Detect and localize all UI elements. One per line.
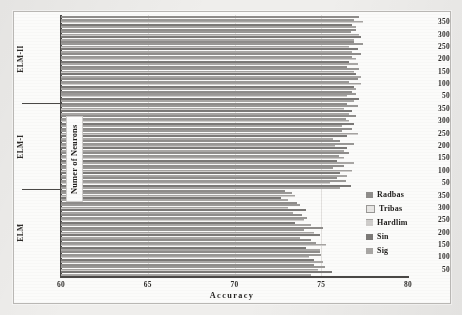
legend-label: Sig [377, 246, 388, 255]
legend-label: Sin [377, 232, 389, 241]
x-tick-label: 70 [215, 280, 255, 289]
y-tick-label: 300 [408, 117, 450, 124]
y-tick-label: 250 [408, 43, 450, 50]
y-tick-label: 300 [408, 31, 450, 38]
legend-swatch-icon [366, 248, 373, 254]
legend-item-tribas[interactable]: Tribas [366, 202, 446, 215]
group-label-elm-i: ELM-I [16, 115, 30, 178]
legend-label: Tribas [379, 204, 402, 213]
legend-item-sin[interactable]: Sin [366, 230, 446, 243]
group-divider [22, 103, 62, 104]
x-tick-label: 75 [301, 280, 341, 289]
group-divider [22, 189, 62, 190]
legend-swatch-icon [366, 234, 373, 240]
legend-item-radbas[interactable]: Radbas [366, 188, 446, 201]
y-tick-label: 350 [408, 105, 450, 112]
legend-swatch-icon [366, 219, 373, 226]
y-tick-label: 100 [408, 167, 450, 174]
x-axis-title: Accuracy [14, 291, 450, 300]
legend-label: Hardlim [377, 218, 408, 227]
y-tick-label: 200 [408, 55, 450, 62]
y-tick-label: 150 [408, 154, 450, 161]
x-tick-label: 60 [41, 280, 81, 289]
legend-swatch-icon [366, 205, 375, 213]
chart-figure: 6065707580ELM-II35030025020015010050ELM-… [13, 11, 451, 304]
x-axis-line [60, 276, 409, 278]
y-tick-label: 50 [408, 179, 450, 186]
legend-label: Radbas [377, 190, 404, 199]
scanned-page-background: 6065707580ELM-II35030025020015010050ELM-… [0, 0, 462, 315]
bar [61, 274, 311, 276]
y-tick-label: 50 [408, 92, 450, 99]
y-axis-title: Numer of Neurons [66, 116, 83, 202]
x-tick-label: 65 [128, 280, 168, 289]
chart-legend: RadbasTribasHardlimSinSig [366, 188, 446, 258]
y-tick-label: 250 [408, 130, 450, 137]
y-tick-label: 350 [408, 18, 450, 25]
y-tick-label: 50 [408, 266, 450, 273]
x-tick-label: 80 [388, 280, 428, 289]
legend-item-hardlim[interactable]: Hardlim [366, 216, 446, 229]
group-label-elm-ii: ELM-II [16, 28, 30, 91]
y-tick-label: 100 [408, 80, 450, 87]
y-tick-label: 150 [408, 68, 450, 75]
legend-swatch-icon [366, 192, 373, 198]
y-tick-label: 200 [408, 142, 450, 149]
group-label-elm: ELM [16, 201, 30, 264]
plot-area: 6065707580ELM-II35030025020015010050ELM-… [14, 12, 450, 303]
legend-item-sig[interactable]: Sig [366, 244, 446, 257]
